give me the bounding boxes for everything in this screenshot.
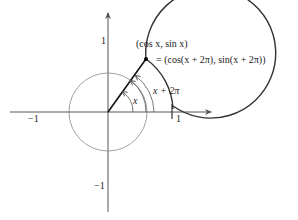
y-tick-neg-label: −1 <box>94 180 105 191</box>
angle-x-label: x <box>132 95 138 106</box>
x-tick-neg-label: −1 <box>28 113 39 124</box>
point-marker <box>144 57 148 61</box>
unit-circle-upper-arc <box>146 59 173 109</box>
y-tick-pos-label: 1 <box>101 35 106 46</box>
angle-arc-x <box>123 92 133 112</box>
angle-x-plus-2pi-label: x + 2π <box>152 85 180 96</box>
point-label-cos-sin: (cos x, sin x) <box>136 38 188 50</box>
unit-circle-diagram: −1 1 1 −1 x x + 2π (cos x, sin x) = (cos… <box>0 0 298 220</box>
radius-line <box>108 59 146 112</box>
x-tick-pos-label: 1 <box>176 113 181 124</box>
point-label-periodic: = (cos(x + 2π), sin(x + 2π)) <box>156 54 266 66</box>
angle-arc-outer <box>136 76 154 112</box>
